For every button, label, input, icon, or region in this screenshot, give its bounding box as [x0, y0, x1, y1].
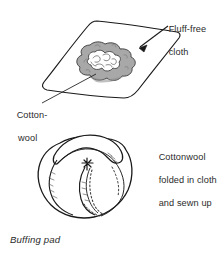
label-cotton-wool-line2: wool	[6, 133, 47, 144]
label-fluff-free-cloth-line1: Fluff-free	[169, 24, 207, 34]
figure-caption: Buffing pad	[10, 234, 60, 245]
buffing-pad-illustration	[38, 135, 132, 218]
label-cottonwool-folded-line1: Cottonwool	[159, 152, 206, 162]
label-cottonwool-folded-line3: and sewn up	[159, 198, 212, 208]
label-cottonwool-folded-line2: folded in cloth	[159, 175, 217, 185]
label-cotton-wool: Cotton- wool	[6, 99, 47, 167]
label-fluff-free-cloth-line2: cloth	[169, 47, 189, 57]
label-fluff-free-cloth: Fluff-free cloth	[158, 13, 206, 70]
label-cottonwool-folded-in-cloth: Cottonwool folded in cloth and sewn up	[148, 141, 217, 221]
buffing-pad-figure: Fluff-free cloth Cotton- wool Cottonwool…	[0, 0, 221, 258]
label-cotton-wool-line1: Cotton-	[17, 110, 48, 120]
